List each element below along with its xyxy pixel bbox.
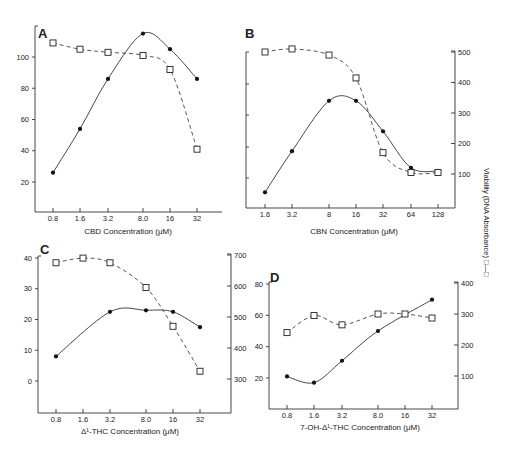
- y-tick-label: 20: [24, 315, 32, 324]
- data-point-square: [107, 260, 113, 266]
- dashed-curve: [287, 313, 432, 333]
- right-tick-label: 100: [461, 372, 474, 381]
- dashed-curve: [265, 49, 438, 174]
- x-tick-label: 8.0: [373, 411, 383, 420]
- data-point-square: [289, 46, 295, 52]
- x-axis-title: 7-OH-Δ¹-THC Concentration (μM): [300, 423, 420, 432]
- data-point-square: [429, 315, 435, 321]
- data-point-circle: [144, 308, 148, 312]
- right-tick-label: 400: [458, 78, 471, 87]
- x-tick-label: 8.0: [138, 214, 148, 223]
- right-tick-label: 400: [461, 279, 474, 288]
- x-tick-label: 32: [196, 415, 204, 424]
- data-point-circle: [340, 359, 344, 363]
- y-tick-label: 100: [16, 53, 29, 62]
- y-tick-label: 80: [255, 280, 263, 289]
- data-point-square: [339, 322, 345, 328]
- y-tick-label: 10: [24, 346, 32, 355]
- right-tick-label: 500: [234, 313, 247, 322]
- data-point-square: [140, 52, 146, 58]
- x-tick-label: 3.2: [105, 415, 115, 424]
- solid-curve: [287, 300, 432, 384]
- solid-curve: [265, 96, 438, 193]
- x-tick-label: 16: [166, 214, 174, 223]
- figure-canvas: A204060801000.81.63.28.01632CBD Concentr…: [0, 0, 510, 455]
- data-point-circle: [54, 354, 58, 358]
- x-tick-label: 1.6: [75, 214, 85, 223]
- x-tick-label: 3.2: [337, 411, 347, 420]
- right-tick-label: 300: [461, 310, 474, 319]
- data-point-square: [284, 330, 290, 336]
- y-tick-label: 80: [21, 84, 29, 93]
- x-tick-label: 0.8: [282, 411, 292, 420]
- y-tick-label: 60: [21, 115, 29, 124]
- x-tick-label: 3.2: [287, 210, 297, 219]
- data-point-square: [197, 368, 203, 374]
- data-point-square: [435, 169, 441, 175]
- x-tick-label: 8.0: [141, 415, 151, 424]
- panel-b: B1002003004005001.63.28163264128CBN Conc…: [245, 26, 471, 236]
- panel-d: D204060801002003004000.81.63.28.016327-O…: [255, 270, 474, 432]
- data-point-circle: [198, 325, 202, 329]
- data-point-circle: [141, 31, 145, 35]
- data-point-square: [353, 75, 359, 81]
- panel-a: A204060801000.81.63.28.01632CBD Concentr…: [16, 26, 222, 236]
- data-point-circle: [285, 374, 289, 378]
- right-tick-label: 400: [234, 344, 247, 353]
- y-tick-label: 60: [255, 311, 263, 320]
- x-tick-label: 16: [352, 210, 360, 219]
- y-tick-label: 40: [21, 146, 29, 155]
- data-point-circle: [51, 171, 55, 175]
- data-point-circle: [168, 47, 172, 51]
- data-point-circle: [290, 149, 294, 153]
- panel-letter: A: [38, 26, 48, 41]
- right-tick-label: 300: [234, 375, 247, 384]
- data-point-circle: [108, 310, 112, 314]
- y-tick-label: 20: [255, 374, 263, 383]
- x-tick-label: 32: [428, 411, 436, 420]
- x-tick-label: 32: [379, 210, 387, 219]
- data-point-square: [408, 169, 414, 175]
- x-tick-label: 8: [327, 210, 331, 219]
- y-tick-label: 30: [24, 284, 32, 293]
- data-point-circle: [78, 127, 82, 131]
- x-tick-label: 128: [432, 210, 445, 219]
- x-tick-label: 16: [169, 415, 177, 424]
- x-tick-label: 1.6: [78, 415, 88, 424]
- x-tick-label: 16: [401, 411, 409, 420]
- data-point-square: [170, 323, 176, 329]
- panel-c: C0102030403004005006007000.81.63.28.0163…: [24, 242, 247, 436]
- data-point-square: [375, 311, 381, 317]
- data-point-circle: [263, 190, 267, 194]
- y-tick-label: 40: [255, 342, 263, 351]
- data-point-square: [194, 146, 200, 152]
- data-point-square: [326, 52, 332, 58]
- data-point-square: [402, 311, 408, 317]
- dashed-curve: [56, 258, 200, 371]
- x-tick-label: 64: [407, 210, 415, 219]
- solid-curve: [56, 308, 200, 356]
- x-tick-label: 1.6: [260, 210, 270, 219]
- data-point-square: [53, 260, 59, 266]
- y-tick-label: 20: [21, 178, 29, 187]
- data-point-circle: [312, 381, 316, 385]
- x-tick-label: 0.8: [51, 415, 61, 424]
- data-point-circle: [327, 99, 331, 103]
- x-tick-label: 0.8: [48, 214, 58, 223]
- data-point-square: [167, 67, 173, 73]
- right-tick-label: 100: [458, 170, 471, 179]
- right-tick-label: 200: [461, 341, 474, 350]
- x-tick-label: 3.2: [103, 214, 113, 223]
- data-point-square: [80, 255, 86, 261]
- x-tick-label: 32: [193, 214, 201, 223]
- right-tick-label: 200: [458, 139, 471, 148]
- panel-letter: D: [270, 270, 279, 285]
- dashed-curve: [53, 43, 197, 149]
- data-point-circle: [354, 99, 358, 103]
- svg-text:Viability (DNA Absorbance) □—□: Viability (DNA Absorbance) □—□: [482, 168, 491, 277]
- right-tick-label: 300: [458, 109, 471, 118]
- data-point-circle: [376, 329, 380, 333]
- panel-letter: C: [40, 242, 50, 257]
- data-point-circle: [195, 77, 199, 81]
- data-point-square: [105, 49, 111, 55]
